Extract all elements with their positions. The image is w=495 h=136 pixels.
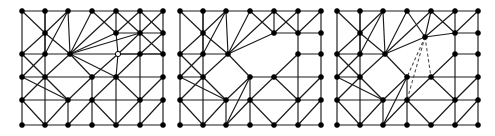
- mesh-vertex: [178, 75, 183, 80]
- mesh-vertex: [248, 98, 253, 103]
- mesh-vertex: [201, 123, 206, 128]
- mesh-vertex: [161, 9, 166, 14]
- mesh-edge: [45, 100, 68, 125]
- mesh-edge: [360, 77, 383, 100]
- mesh-vertex: [161, 52, 166, 57]
- mesh-panel-mesh-with-cavity: [178, 9, 324, 128]
- mesh-edge: [22, 33, 45, 54]
- mesh-vertex: [296, 9, 301, 14]
- mesh-vertex: [453, 123, 458, 128]
- mesh-vertex: [429, 9, 434, 14]
- mesh-vertex: [201, 31, 206, 36]
- mesh-vertex: [476, 31, 481, 36]
- mesh-vertex: [178, 52, 183, 57]
- mesh-svg-canvas: [0, 0, 495, 136]
- mesh-edge: [203, 11, 226, 33]
- mesh-edge: [360, 54, 385, 77]
- mesh-vertex: [161, 98, 166, 103]
- mesh-vertex: [114, 9, 119, 14]
- mesh-edge: [385, 37, 425, 54]
- mesh-vertex: [248, 9, 253, 14]
- mesh-vertex: [358, 75, 363, 80]
- mesh-vertex: [226, 52, 231, 57]
- mesh-vertex: [476, 98, 481, 103]
- mesh-vertex: [138, 9, 143, 14]
- mesh-vertex: [178, 9, 183, 14]
- mesh-vertex: [476, 52, 481, 57]
- mesh-edges: [22, 11, 163, 125]
- mesh-vertex: [138, 52, 143, 57]
- mesh-edge: [228, 54, 250, 77]
- mesh-vertex: [272, 9, 277, 14]
- mesh-vertex: [335, 9, 340, 14]
- mesh-vertex: [429, 123, 434, 128]
- mesh-vertex: [358, 123, 363, 128]
- mesh-vertex: [476, 9, 481, 14]
- mesh-vertex: [296, 123, 301, 128]
- mesh-vertex: [20, 98, 25, 103]
- mesh-edge: [180, 11, 203, 33]
- mesh-vertex: [319, 52, 324, 57]
- mesh-edge: [455, 11, 478, 33]
- mesh-edge: [45, 54, 70, 77]
- mesh-vertex: [423, 35, 428, 40]
- mesh-edge: [70, 11, 92, 54]
- mesh-vertex: [272, 31, 277, 36]
- mesh-edge: [45, 11, 68, 33]
- mesh-edge: [360, 11, 383, 54]
- mesh-vertex: [319, 98, 324, 103]
- mesh-vertex: [66, 123, 71, 128]
- mesh-vertex: [43, 52, 48, 57]
- mesh-edge: [385, 54, 407, 77]
- mesh-edge: [360, 100, 383, 125]
- mesh-edge: [140, 100, 163, 125]
- mesh-edge: [180, 77, 203, 100]
- mesh-edge: [180, 100, 203, 125]
- mesh-vertex: [296, 98, 301, 103]
- mesh-edge: [383, 100, 407, 125]
- mesh-edge: [140, 77, 163, 100]
- mesh-edge: [92, 77, 116, 100]
- mesh-vertex: [201, 9, 206, 14]
- mesh-vertex: [43, 75, 48, 80]
- mesh-edge: [68, 11, 70, 54]
- mesh-edge: [383, 77, 407, 100]
- mesh-vertex: [178, 98, 183, 103]
- mesh-edge: [226, 100, 250, 125]
- mesh-vertex: [453, 98, 458, 103]
- mesh-edge: [360, 11, 383, 33]
- mesh-vertex: [248, 123, 253, 128]
- mesh-edge: [22, 77, 45, 100]
- mesh-vertex: [383, 52, 388, 57]
- mesh-edge: [228, 33, 274, 54]
- mesh-edge: [180, 33, 203, 54]
- mesh-vertex: [453, 31, 458, 36]
- mesh-vertex: [66, 9, 71, 14]
- mesh-vertex: [224, 9, 229, 14]
- mesh-edge: [45, 77, 68, 100]
- mesh-edge: [116, 33, 118, 54]
- mesh-vertex: [20, 9, 25, 14]
- mesh-edge: [298, 100, 321, 125]
- mesh-vertex: [335, 123, 340, 128]
- mesh-vertex: [476, 123, 481, 128]
- mesh-edge: [407, 11, 425, 37]
- mesh-edge: [226, 77, 250, 125]
- mesh-vertex: [381, 123, 386, 128]
- mesh-panel-mesh-retriangulated: [335, 9, 481, 128]
- mesh-edge: [274, 77, 298, 100]
- mesh-dashed-edge: [407, 37, 425, 100]
- mesh-edge: [92, 54, 118, 77]
- mesh-vertex: [296, 52, 301, 57]
- mesh-edge: [70, 33, 116, 54]
- mesh-vertex: [138, 123, 143, 128]
- mesh-edge: [203, 33, 228, 54]
- mesh-vertex: [90, 98, 95, 103]
- mesh-vertex: [319, 31, 324, 36]
- mesh-vertex: [90, 123, 95, 128]
- mesh-edge: [455, 77, 478, 100]
- mesh-edge: [274, 100, 298, 125]
- mesh-vertex: [381, 9, 386, 14]
- mesh-edge: [203, 54, 228, 77]
- mesh-vertex: [114, 75, 119, 80]
